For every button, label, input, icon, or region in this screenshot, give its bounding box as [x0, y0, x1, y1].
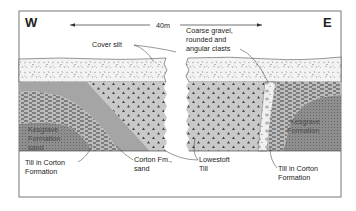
label-till-corton-west-1: Till in Corton [25, 158, 65, 167]
coarse-gravel-east [186, 57, 341, 82]
label-kesgrave-west-2: Formation [28, 134, 60, 143]
east-section [186, 57, 341, 151]
coarse-gravel-west [19, 58, 167, 82]
lowestoft-till-east [186, 82, 265, 151]
label-lowestoft-2: Till [199, 164, 208, 173]
label-kesgrave-east-1: Kesgrave [290, 117, 320, 126]
label-till-corton-east-1: Till in Corton [278, 164, 318, 173]
label-corton-sand-1: Corton Fm., [134, 155, 172, 164]
label-coarse-gravel-3: angular clasts [186, 44, 231, 53]
label-cover-silt: Cover silt [92, 40, 122, 49]
west-label: W [25, 15, 38, 30]
label-lowestoft-1: Lowestoft [199, 155, 230, 164]
label-kesgrave-west-1: Kesgrave [28, 125, 58, 134]
label-coarse-gravel-1: Coarse gravel, [186, 26, 233, 35]
label-till-corton-west-2: Formation [25, 167, 57, 176]
label-corton-sand-2: sand [134, 164, 150, 173]
scale-label: 40m [156, 21, 170, 30]
label-till-corton-east-2: Formation [278, 173, 310, 182]
label-kesgrave-east-2: Formation [287, 126, 319, 135]
east-label: E [323, 15, 332, 30]
geological-cross-section: W E 40m Cover silt Coarse gravel, rounde… [0, 0, 356, 211]
label-coarse-gravel-2: rounded and [186, 35, 226, 44]
label-kesgrave-west-3: sand [28, 143, 44, 152]
